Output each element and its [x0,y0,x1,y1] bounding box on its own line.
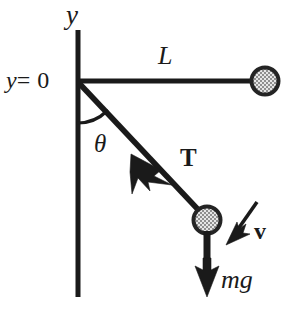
length-label: L [158,43,172,69]
tension-label: T [180,145,197,170]
pendulum-diagram: y y= 0 L θ T v mg [0,0,302,316]
velocity-arrowhead [226,222,250,245]
pendulum-bob-top [252,68,279,95]
y-zero-label: y= 0 [6,68,50,92]
pendulum-bob-swinging [194,207,221,234]
angle-arc-theta [78,111,107,123]
y-zero-value: = 0 [17,67,50,93]
angle-label: θ [94,131,106,156]
velocity-label: v [254,219,266,243]
y-zero-variable: y [6,67,17,93]
y-axis-label: y [66,2,78,29]
weight-label: mg [221,267,253,293]
diagram-canvas [0,0,302,316]
weight-arrowhead [195,258,219,297]
